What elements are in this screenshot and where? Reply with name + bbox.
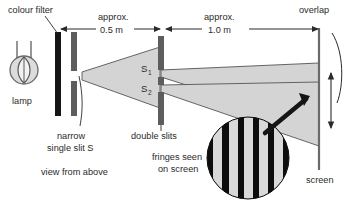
label-approx-1: approx. xyxy=(98,12,129,22)
single-slit-barrier xyxy=(71,32,77,116)
lamp-icon xyxy=(10,41,38,84)
label-distance-1: 0.5 m xyxy=(100,25,123,35)
label-slit-1-text: S xyxy=(141,63,147,74)
label-overlap: overlap xyxy=(299,5,329,15)
label-distance-2: 1.0 m xyxy=(208,25,231,35)
label-narrow: narrow xyxy=(57,131,85,141)
label-approx-2: approx. xyxy=(204,12,235,22)
optics-diagram: colour filter lamp narrow single slit S … xyxy=(0,0,352,208)
overlap-bracket xyxy=(332,33,342,103)
label-slit-1-subscript: 1 xyxy=(148,69,152,76)
label-view-from-above: view from above xyxy=(41,167,108,177)
fringe-magnifier xyxy=(207,117,289,199)
colour-filter xyxy=(55,32,61,116)
label-screen: screen xyxy=(306,175,334,185)
beam-single-to-double xyxy=(82,47,160,108)
label-fringes-seen: fringes seen xyxy=(152,152,202,162)
figure-canvas: colour filter lamp narrow single slit S … xyxy=(0,0,352,208)
double-slit-barrier xyxy=(158,36,164,125)
label-single-slit: single slit S xyxy=(47,143,93,153)
single-slit-leader xyxy=(79,76,82,126)
label-slit-2-subscript: 2 xyxy=(148,89,152,96)
label-colour-filter: colour filter xyxy=(8,5,53,15)
label-slit-2-text: S xyxy=(141,83,147,94)
colour-filter-leader xyxy=(45,16,58,34)
label-lamp: lamp xyxy=(12,96,32,106)
label-double-slits: double slits xyxy=(131,131,177,141)
label-on-screen: on screen xyxy=(158,164,198,174)
